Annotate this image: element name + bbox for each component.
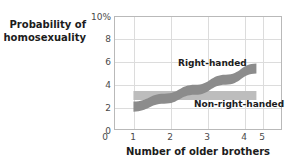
series-label-non-right-handed: Non-right-handed (194, 99, 284, 109)
x-tick-label-2: 2 (163, 132, 177, 142)
y-axis-title: Probability of homosexuality (2, 18, 86, 44)
y-tick-label-10: 10% (85, 13, 111, 22)
x-tick-label-0: 0 (98, 132, 112, 142)
x-tick-label-3: 3 (200, 132, 214, 142)
y-tick-label-4: 4 (85, 81, 111, 90)
series-label-right-handed: Right-handed (178, 58, 247, 68)
plot-area: Right-handed Non-right-handed (114, 16, 282, 130)
y-axis-title-line-1: Probability of (2, 18, 86, 31)
chart-figure: Probability of homosexuality 10% 8 6 4 2… (0, 0, 286, 162)
y-tick-label-2: 2 (85, 104, 111, 113)
y-axis-title-line-2: homosexuality (2, 31, 86, 44)
y-tick-label-6: 6 (85, 58, 111, 67)
x-axis-title: Number of older brothers (114, 146, 282, 157)
x-tick-label-4: 4 (237, 132, 251, 142)
x-axis-tick-labels: 0 1 2 3 4 5 (0, 132, 286, 146)
series-plot (115, 17, 281, 129)
x-tick-label-5: 5 (255, 132, 269, 142)
x-tick-label-1: 1 (126, 132, 140, 142)
y-tick-label-8: 8 (85, 35, 111, 44)
